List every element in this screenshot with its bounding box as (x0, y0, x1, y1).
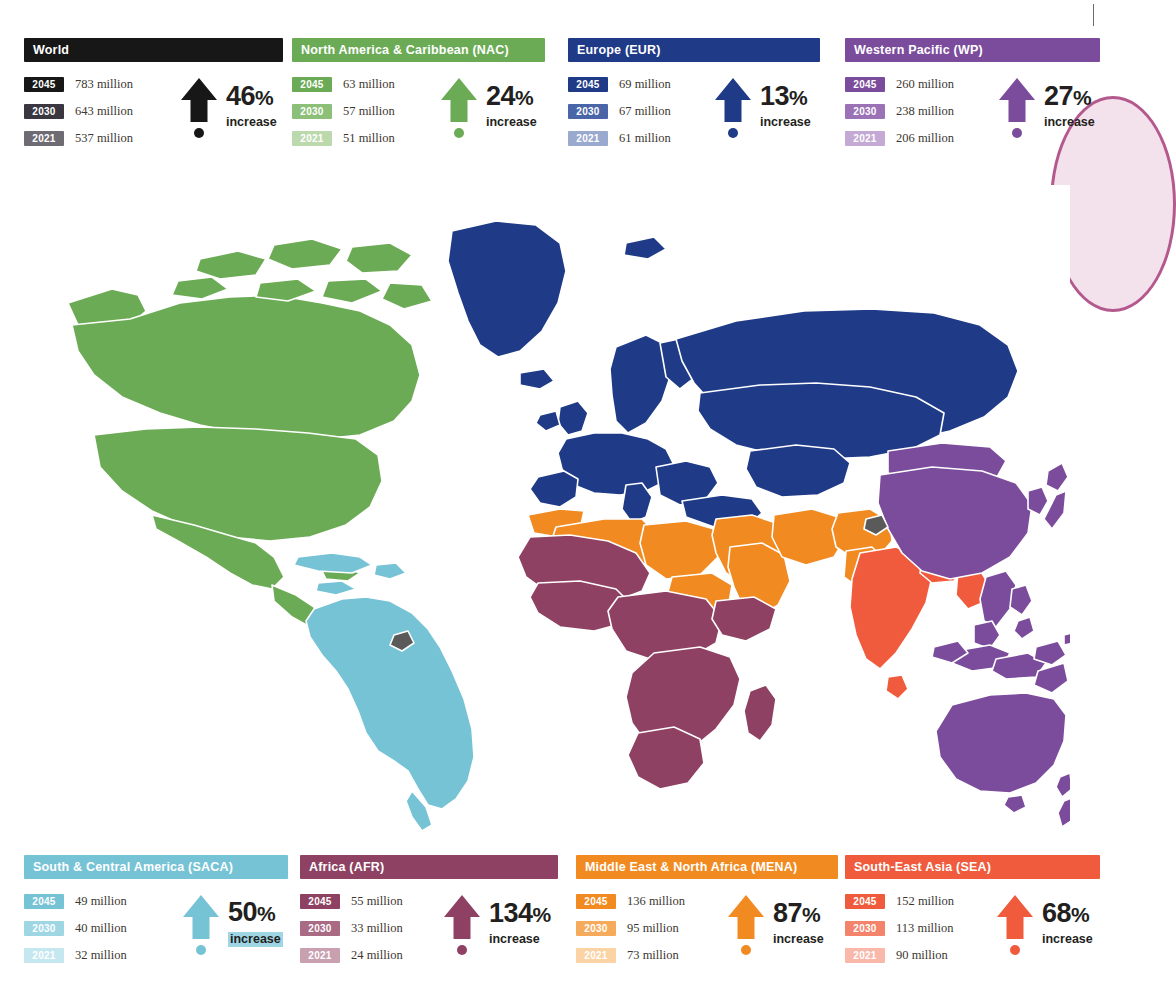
year-chip-2030: 2030 (292, 104, 332, 119)
year-value-2045: 152 million (896, 894, 954, 909)
year-row: 2045 49 million (24, 891, 127, 912)
year-row: 2045 260 million (845, 74, 954, 95)
up-arrow-icon (726, 893, 766, 959)
panel-title: South-East Asia (SEA) (854, 861, 991, 874)
region-panel-sea: South-East Asia (SEA) 2045 152 million 2… (845, 855, 1100, 975)
year-row: 2021 32 million (24, 945, 127, 966)
panel-title: Africa (AFR) (309, 861, 384, 874)
crop-mark (1093, 4, 1094, 26)
panel-body: 2045 136 million 2030 95 million 2021 73… (576, 891, 838, 975)
year-row: 2030 67 million (568, 101, 671, 122)
year-value-2021: 51 million (343, 131, 395, 146)
panel-title: Western Pacific (WP) (854, 44, 983, 57)
year-row: 2021 61 million (568, 128, 671, 149)
year-value-2030: 113 million (896, 921, 954, 936)
year-chip-2045: 2045 (300, 894, 340, 909)
panel-body: 2045 152 million 2030 113 million 2021 9… (845, 891, 1100, 975)
year-value-2045: 55 million (351, 894, 403, 909)
year-value-list: 2045 152 million 2030 113 million 2021 9… (845, 891, 954, 972)
year-chip-2030: 2030 (576, 921, 616, 936)
world-map-svg (60, 185, 1070, 835)
panel-header-bar: South & Central America (SACA) (24, 855, 288, 879)
panel-header-bar: Europe (EUR) (568, 38, 820, 62)
year-chip-2045: 2045 (845, 77, 885, 92)
percent-value: 46% (226, 83, 273, 110)
percent-value: 68% (1042, 900, 1089, 927)
year-value-list: 2045 63 million 2030 57 million 2021 51 … (292, 74, 395, 155)
percent-block: 68% increase (1042, 900, 1093, 952)
increase-label: increase (489, 933, 540, 946)
panel-title: North America & Caribbean (NAC) (301, 44, 509, 57)
up-arrow-icon (995, 893, 1035, 959)
up-arrow-icon (181, 893, 221, 959)
year-value-2030: 33 million (351, 921, 403, 936)
increase-label: increase (226, 116, 277, 129)
year-chip-2021: 2021 (300, 948, 340, 963)
percent-value: 13% (760, 83, 807, 110)
year-chip-2045: 2045 (24, 894, 64, 909)
panel-header-bar: Africa (AFR) (300, 855, 558, 879)
year-row: 2030 238 million (845, 101, 954, 122)
year-value-2021: 24 million (351, 948, 403, 963)
year-value-2030: 643 million (75, 104, 133, 119)
panel-title: Europe (EUR) (577, 44, 661, 57)
year-chip-2030: 2030 (24, 921, 64, 936)
year-value-list: 2045 783 million 2030 643 million 2021 5… (24, 74, 133, 155)
year-chip-2021: 2021 (576, 948, 616, 963)
year-chip-2030: 2030 (568, 104, 608, 119)
percent-value: 24% (486, 83, 533, 110)
region-panel-mena: Middle East & North Africa (MENA) 2045 1… (576, 855, 838, 975)
region-panel-wp: Western Pacific (WP) 2045 260 million 20… (845, 38, 1100, 158)
year-value-2021: 537 million (75, 131, 133, 146)
percent-block: 87% increase (773, 900, 824, 952)
year-value-2030: 57 million (343, 104, 395, 119)
year-value-2021: 61 million (619, 131, 671, 146)
year-chip-2030: 2030 (845, 104, 885, 119)
year-value-list: 2045 136 million 2030 95 million 2021 73… (576, 891, 685, 972)
panel-header-bar: North America & Caribbean (NAC) (292, 38, 545, 62)
year-row: 2045 152 million (845, 891, 954, 912)
growth-indicator: 46% increase (179, 76, 277, 142)
up-arrow-icon (713, 76, 753, 142)
year-row: 2021 90 million (845, 945, 954, 966)
panel-header-bar: Middle East & North Africa (MENA) (576, 855, 838, 879)
year-value-2045: 260 million (896, 77, 954, 92)
increase-label: increase (1042, 933, 1093, 946)
growth-indicator: 13% increase (713, 76, 811, 142)
increase-label: increase (486, 116, 537, 129)
year-row: 2045 69 million (568, 74, 671, 95)
year-row: 2045 136 million (576, 891, 685, 912)
percent-block: 50% increase (228, 899, 283, 953)
year-value-2030: 40 million (75, 921, 127, 936)
year-row: 2021 73 million (576, 945, 685, 966)
panel-title: Middle East & North Africa (MENA) (585, 861, 797, 874)
year-row: 2021 51 million (292, 128, 395, 149)
year-value-2045: 63 million (343, 77, 395, 92)
panel-body: 2045 260 million 2030 238 million 2021 2… (845, 74, 1100, 158)
year-value-list: 2045 49 million 2030 40 million 2021 32 … (24, 891, 127, 972)
year-chip-2030: 2030 (845, 921, 885, 936)
year-chip-2021: 2021 (24, 131, 64, 146)
world-map (60, 185, 1070, 835)
year-value-2030: 238 million (896, 104, 954, 119)
year-value-2021: 73 million (627, 948, 679, 963)
increase-label: increase (228, 932, 283, 947)
year-row: 2030 113 million (845, 918, 954, 939)
region-panel-afr: Africa (AFR) 2045 55 million 2030 33 mil… (300, 855, 558, 975)
increase-label: increase (1044, 116, 1095, 129)
year-chip-2021: 2021 (845, 131, 885, 146)
year-chip-2021: 2021 (24, 948, 64, 963)
year-value-2045: 136 million (627, 894, 685, 909)
up-arrow-icon (442, 893, 482, 959)
percent-value: 27% (1044, 83, 1091, 110)
growth-indicator: 24% increase (439, 76, 537, 142)
year-row: 2045 783 million (24, 74, 133, 95)
growth-indicator: 50% increase (181, 893, 283, 959)
year-row: 2030 643 million (24, 101, 133, 122)
year-chip-2021: 2021 (845, 948, 885, 963)
year-row: 2045 55 million (300, 891, 403, 912)
panel-title: World (33, 44, 69, 57)
year-chip-2045: 2045 (845, 894, 885, 909)
year-chip-2045: 2045 (568, 77, 608, 92)
